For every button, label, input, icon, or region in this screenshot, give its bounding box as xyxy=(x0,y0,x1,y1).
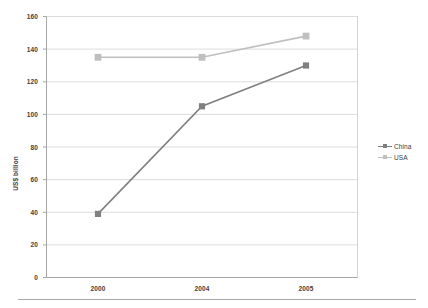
series-usa-marker xyxy=(303,33,310,40)
line-chart: 160 140 120 100 80 60 40 20 0 US$ billio… xyxy=(0,0,428,308)
legend-entry-china[interactable]: China xyxy=(378,141,428,151)
y-tick-label: 40 xyxy=(8,209,38,216)
legend-marker-icon xyxy=(378,142,392,150)
x-tick-label: 2004 xyxy=(172,285,232,292)
x-tick-label: 2005 xyxy=(276,285,336,292)
footer-divider xyxy=(18,299,416,300)
legend-label: USA xyxy=(394,154,408,161)
plot-area xyxy=(0,0,428,308)
series-usa-marker xyxy=(199,54,206,61)
legend-entry-usa[interactable]: USA xyxy=(378,152,428,162)
y-tick-label: 0 xyxy=(8,274,38,281)
legend-label: China xyxy=(394,143,411,150)
y-tick-label: 160 xyxy=(8,13,38,20)
series-china-marker xyxy=(95,211,101,217)
series-usa-marker xyxy=(95,54,102,61)
legend: China USA xyxy=(378,141,428,163)
y-tick-label: 120 xyxy=(8,78,38,85)
y-axis-title: US$ billion xyxy=(12,144,19,204)
y-tick-label: 20 xyxy=(8,241,38,248)
x-tick-label: 2000 xyxy=(68,285,128,292)
series-china-marker xyxy=(303,62,309,68)
y-tick-label: 100 xyxy=(8,111,38,118)
legend-marker-icon xyxy=(378,153,392,161)
series-china-marker xyxy=(199,103,205,109)
y-tick-marks xyxy=(43,17,47,278)
y-tick-label: 140 xyxy=(8,46,38,53)
